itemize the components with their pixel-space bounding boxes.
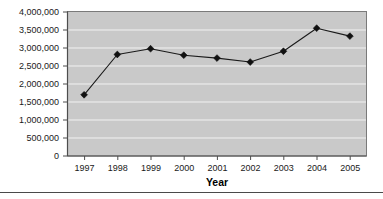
x-tick-label: 2005	[340, 163, 360, 173]
x-tick-label: 1999	[141, 163, 161, 173]
x-tick-label: 2003	[274, 163, 294, 173]
x-tick-label: 1997	[75, 163, 95, 173]
x-tick-label: 1998	[108, 163, 128, 173]
x-axis-title: Year	[206, 176, 228, 188]
y-tick-label: 2,000,000	[19, 79, 59, 89]
x-axis-labels: 1997 1998 1999 2000 2001 2002 2003 2004 …	[75, 163, 361, 173]
x-tick-label: 2001	[207, 163, 227, 173]
x-tick-label: 2004	[307, 163, 327, 173]
y-tick-label: 1,500,000	[19, 97, 59, 107]
x-tick-label: 2000	[174, 163, 194, 173]
y-tick-label: 4,000,000	[19, 7, 59, 17]
y-tick-label: 3,000,000	[19, 43, 59, 53]
y-tick-label: 1,000,000	[19, 115, 59, 125]
y-tick-label: 0	[54, 151, 59, 161]
y-tick-label: 3,500,000	[19, 25, 59, 35]
y-tick-label: 500,000	[26, 133, 59, 143]
y-tick-label: 2,500,000	[19, 61, 59, 71]
chart-figure: 4,000,000 3,500,000 3,000,000 2,500,000 …	[0, 0, 383, 199]
x-tick-label: 2002	[241, 163, 261, 173]
line-chart: 4,000,000 3,500,000 3,000,000 2,500,000 …	[0, 0, 383, 199]
